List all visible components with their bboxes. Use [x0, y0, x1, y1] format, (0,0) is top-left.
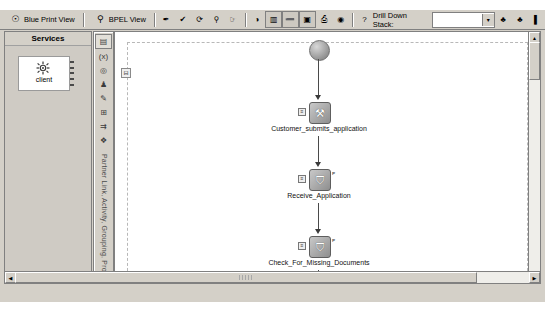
activity-node-label: Receive_Application	[287, 192, 350, 199]
palette-circle-icon[interactable]: ◎	[96, 64, 111, 77]
toolbar-separator	[154, 13, 155, 27]
bpel-icon: ⚲	[94, 13, 107, 26]
palette-scope-icon[interactable]: ⊞	[96, 106, 111, 119]
node-expand-badge[interactable]: ≡	[298, 175, 306, 183]
wand-icon[interactable]: ✒	[158, 11, 175, 28]
connector	[318, 203, 319, 231]
drill-down-stack-label: Drill Down Stack:	[373, 11, 429, 29]
activity-node-label: Check_For_Missing_Documents	[268, 259, 369, 266]
drill-up-tree-icon[interactable]: ♣	[512, 11, 529, 28]
component-palette: ▤ (x) ◎ ♟ ✎ ⊞ ⇉ ❖ Partner Link, Activity…	[93, 31, 114, 283]
palette-icon-list: ▤ (x) ◎ ♟ ✎ ⊞ ⇉ ❖	[95, 34, 112, 148]
connector-arrow-icon	[315, 229, 321, 234]
check-icon: ⛉	[316, 242, 324, 253]
panel-split-icon[interactable]: ▥	[265, 11, 282, 28]
blueprint-icon: ☉	[9, 13, 22, 26]
vertical-scroll-thumb[interactable]	[529, 42, 540, 80]
toolbar-separator	[352, 13, 353, 27]
binoculars-icon[interactable]: ⚲	[208, 11, 225, 28]
main-toolbar: ☉ Blue Print View ⚲ BPEL View ✒ ✔ ⟳ ⚲ ☞ …	[0, 10, 545, 30]
gear-service-icon	[36, 61, 50, 75]
node-partner-badge: ᴘ	[332, 237, 335, 243]
maximize-panel-icon[interactable]: ▣	[299, 11, 316, 28]
diagram-canvas[interactable]: ⊟ ⚒ ≡ Customer_submits_application	[114, 31, 541, 283]
palette-partner-icon[interactable]: ♟	[96, 78, 111, 91]
workspace: Services	[0, 29, 545, 287]
process-flow: ⚒ ≡ Customer_submits_application ⛉ ≡ ᴘ R…	[115, 32, 540, 282]
run-icon[interactable]: ◑	[249, 11, 266, 28]
pointer-icon[interactable]: ☞	[225, 11, 242, 28]
node-expand-badge[interactable]: ≡	[298, 108, 306, 116]
connector-arrow-icon	[315, 95, 321, 100]
blueprint-view-label: Blue Print View	[24, 15, 75, 24]
service-card-client[interactable]: client	[18, 56, 70, 91]
services-panel-title: Services	[5, 32, 91, 46]
palette-select-icon[interactable]: ▤	[95, 34, 112, 49]
bpel-view-button[interactable]: ⚲ BPEL View	[89, 11, 151, 29]
activity-node[interactable]: ⚒	[309, 102, 331, 124]
blueprint-view-button[interactable]: ☉ Blue Print View	[4, 11, 80, 29]
horizontal-scrollbar[interactable]: ◀ ▶	[4, 271, 541, 284]
bpel-view-label: BPEL View	[109, 15, 146, 24]
palette-pick-icon[interactable]: ❖	[96, 134, 111, 147]
scroll-thumb-grip	[239, 275, 253, 280]
drill-down-stack-select[interactable]: ▾	[432, 12, 495, 28]
help-icon[interactable]: ?	[356, 11, 373, 28]
application-window: ☉ Blue Print View ⚲ BPEL View ✒ ✔ ⟳ ⚲ ☞ …	[0, 10, 545, 302]
connector	[318, 59, 319, 97]
palette-variable-icon[interactable]: (x)	[96, 50, 111, 63]
connector-arrow-icon	[315, 162, 321, 167]
node-expand-badge[interactable]: ≡	[298, 242, 306, 250]
horizontal-scroll-thumb[interactable]	[15, 272, 477, 283]
camera-icon[interactable]: ◉	[332, 11, 349, 28]
toolbar-separator	[83, 13, 84, 27]
print-icon[interactable]: ⎙	[316, 11, 333, 28]
partner-link-bar	[69, 59, 74, 88]
activity-node-label: Customer_submits_application	[271, 125, 367, 132]
task-icon: ⚒	[315, 108, 325, 119]
drill-down-tree-icon[interactable]: ♣	[495, 11, 512, 28]
connector	[318, 136, 319, 164]
palette-assign-icon[interactable]: ✎	[96, 92, 111, 105]
services-panel-body: client	[5, 46, 91, 282]
start-node[interactable]	[309, 40, 330, 61]
toolbar-separator	[245, 13, 246, 27]
service-card-label: client	[19, 76, 69, 83]
minimize-panel-icon[interactable]: ➖	[282, 11, 299, 28]
refresh-icon[interactable]: ⟳	[191, 11, 208, 28]
node-partner-badge: ᴘ	[332, 170, 335, 176]
palette-flow-icon[interactable]: ⇉	[96, 120, 111, 133]
canvas-surface: ⊟ ⚒ ≡ Customer_submits_application	[115, 32, 540, 282]
services-panel: Services	[4, 31, 92, 283]
palette-vertical-label: Partner Link, Activity, Grouping, Proces…	[101, 154, 108, 274]
validate-check-icon[interactable]: ✔	[175, 11, 192, 28]
scroll-right-button[interactable]: ▶	[529, 272, 540, 283]
drill-end-icon[interactable]: ▌	[528, 11, 545, 28]
activity-node[interactable]: ⛉	[309, 169, 331, 191]
palette-vertical-label-wrap: Partner Link, Activity, Grouping, Proces…	[94, 154, 113, 274]
activity-node[interactable]: ⛉	[309, 236, 331, 258]
chevron-down-icon[interactable]: ▾	[482, 14, 494, 26]
vertical-scrollbar[interactable]: ▲ ▼	[528, 31, 541, 283]
receive-icon: ⛉	[316, 175, 324, 186]
